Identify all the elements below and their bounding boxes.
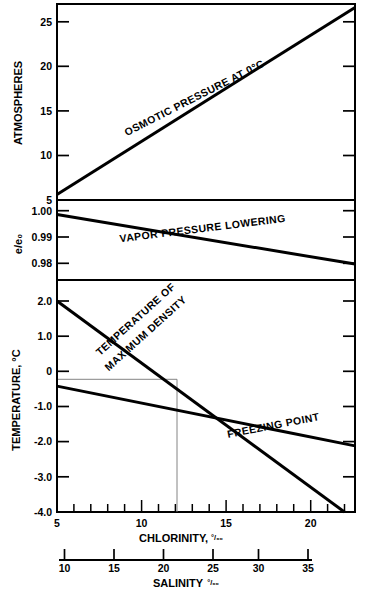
ytick-label-bot-1: 1.0 bbox=[37, 330, 52, 342]
ytick-label-mid-1: 0.99 bbox=[32, 231, 53, 243]
curve-label-osmotic-pressure: OSMOTIC PRESSURE AT 0°C bbox=[122, 57, 266, 138]
panel-osmotic-pressure: 25 20 15 10 5 OSMOTIC PRESSURE AT 0°C AT… bbox=[12, 4, 355, 206]
panel-vapor-pressure: 1.00 0.99 0.98 VAPOR PRESSURE LOWERING e… bbox=[12, 200, 355, 280]
ytick-label-bot-3: -1.0 bbox=[34, 400, 52, 412]
xtick-label-chlorinity-3: 20 bbox=[305, 517, 317, 529]
xtick-label-chlorinity-0: 5 bbox=[54, 517, 60, 529]
xtick-label-chlorinity-2: 15 bbox=[220, 517, 232, 529]
yaxis-title-atmospheres: ATMOSPHERES bbox=[12, 61, 24, 145]
panel-temperature: 2.0 1.0 0 -1.0 -2.0 -3.0 -4.0 bbox=[10, 280, 355, 518]
ytick-label-bot-6: -4.0 bbox=[34, 506, 52, 518]
xtick-label-chlorinity-1: 10 bbox=[136, 517, 148, 529]
ytick-label-top-0: 25 bbox=[40, 16, 52, 28]
panel-temperature-yticks bbox=[57, 301, 355, 477]
xtick-label-salinity-5: 35 bbox=[302, 562, 314, 574]
permille-symbol-salinity: °/₀₀ bbox=[207, 578, 219, 587]
series-temperature-max-density bbox=[57, 301, 345, 512]
ytick-label-bot-4: -2.0 bbox=[34, 435, 52, 447]
yaxis-title-temperature: TEMPERATURE, °C bbox=[10, 349, 22, 450]
xtick-label-salinity-2: 20 bbox=[158, 562, 170, 574]
figure-container: 25 20 15 10 5 OSMOTIC PRESSURE AT 0°C AT… bbox=[0, 0, 369, 590]
xtick-label-salinity-0: 10 bbox=[59, 562, 71, 574]
xaxis-title-salinity: SALINITY°/₀₀ bbox=[153, 577, 219, 589]
svg-text:e/e₀: e/e₀ bbox=[12, 234, 24, 254]
ytick-label-mid-2: 0.98 bbox=[32, 257, 53, 269]
xtick-label-salinity-3: 25 bbox=[207, 562, 219, 574]
yaxis-title-vapor-ratio: e/e₀ bbox=[12, 234, 24, 254]
permille-symbol-chlorinity: °/₀₀ bbox=[211, 533, 223, 542]
panel-temperature-xticks bbox=[57, 500, 345, 512]
xtick-label-salinity-1: 15 bbox=[108, 562, 120, 574]
chlorinity-axis: 5 10 15 20 CHLORINITY,°/₀₀ bbox=[54, 517, 317, 544]
vapor-ratio-denominator: e₀ bbox=[12, 234, 24, 245]
salinity-axis-ticks bbox=[65, 549, 309, 560]
ytick-label-bot-5: -3.0 bbox=[34, 471, 52, 483]
ytick-label-bot-0: 2.0 bbox=[37, 295, 52, 307]
xtick-label-salinity-4: 30 bbox=[253, 562, 265, 574]
ytick-label-top-3: 10 bbox=[40, 149, 52, 161]
salinity-axis: 10 15 20 25 30 35 SALINITY°/₀₀ bbox=[59, 549, 314, 589]
series-osmotic-pressure bbox=[57, 7, 355, 194]
ytick-label-bot-2: 0 bbox=[46, 365, 52, 377]
ytick-label-mid-0: 1.00 bbox=[32, 205, 53, 217]
ytick-label-top-2: 15 bbox=[40, 105, 52, 117]
xaxis-title-chlorinity-text: CHLORINITY, bbox=[139, 532, 208, 544]
xaxis-title-chlorinity: CHLORINITY,°/₀₀ bbox=[139, 532, 223, 544]
three-panel-chart: 25 20 15 10 5 OSMOTIC PRESSURE AT 0°C AT… bbox=[0, 0, 369, 590]
ytick-label-top-1: 20 bbox=[40, 60, 52, 72]
xaxis-title-salinity-text: SALINITY bbox=[153, 577, 204, 589]
